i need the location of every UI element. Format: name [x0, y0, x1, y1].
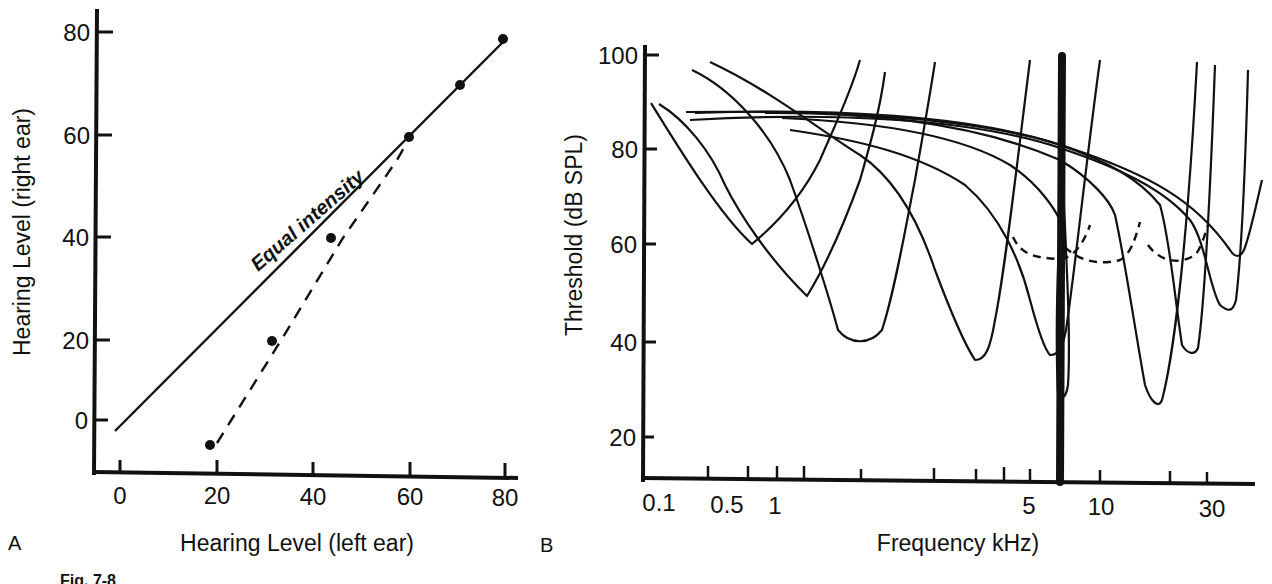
y-tick-label: 40 [62, 224, 89, 251]
panel-b: 100 80 60 40 20 0.1 0.5 1 5 10 [540, 42, 1262, 556]
panel-a-letter: A [8, 532, 22, 554]
y-tick-label: 60 [610, 231, 637, 258]
dashed-tips [1013, 222, 1208, 262]
panel-b-x-axis [641, 478, 1255, 484]
measured-balance-line [217, 137, 410, 443]
tuning-curve [695, 65, 1215, 353]
data-point [498, 34, 508, 44]
panel-a-x-axis [93, 472, 518, 478]
equal-intensity-label: Equal intensity [246, 165, 368, 276]
data-point [267, 336, 277, 346]
figure: 80 60 40 20 0 0 20 40 60 80 Hearing Leve… [0, 0, 1272, 584]
tuning-curves [651, 60, 1262, 404]
x-tick-label: 10 [1088, 493, 1115, 520]
tuning-curve [710, 60, 1030, 360]
y-tick-label: 20 [62, 327, 89, 354]
data-point [455, 80, 465, 90]
y-tick-label: 20 [609, 424, 636, 451]
panel-b-y-axis-title: Threshold (dB SPL) [561, 134, 587, 336]
x-tick-label: 30 [1199, 495, 1226, 522]
tuning-curve [692, 62, 935, 341]
x-tick-label: 40 [300, 483, 327, 510]
figure-svg: 80 60 40 20 0 0 20 40 60 80 Hearing Leve… [0, 0, 1272, 584]
panel-a-y-axis [94, 9, 97, 475]
y-tick-label: 80 [611, 136, 638, 163]
x-tick-label: 0.5 [710, 491, 743, 518]
x-tick-label: 20 [204, 482, 231, 509]
panel-a-y-tick-labels: 80 60 40 20 0 [62, 19, 90, 434]
y-tick-label: 80 [63, 19, 90, 46]
panel-b-x-tick-labels: 0.1 0.5 1 5 10 30 [642, 489, 1225, 522]
data-point [326, 233, 336, 243]
y-tick-label: 40 [610, 329, 637, 356]
tuning-curve [659, 72, 885, 296]
equal-intensity-line [115, 39, 506, 431]
dashed-tip [1148, 225, 1208, 261]
x-tick-label: 0.1 [642, 489, 675, 516]
panel-b-y-tick-labels: 100 80 60 40 20 [598, 42, 638, 451]
data-point [404, 132, 414, 142]
panel-a-x-axis-title: Hearing Level (left ear) [180, 530, 414, 556]
x-tick-label: 1 [768, 492, 781, 519]
panel-a: 80 60 40 20 0 0 20 40 60 80 Hearing Leve… [8, 9, 518, 556]
panel-a-y-axis-title: Hearing Level (right ear) [9, 108, 35, 356]
tuning-curve [651, 60, 860, 244]
x-tick-label: 60 [397, 483, 424, 510]
y-tick-label: 0 [75, 407, 88, 434]
panel-a-x-tick-labels: 0 20 40 60 80 [113, 482, 518, 511]
data-point [205, 440, 215, 450]
x-tick-label: 0 [113, 482, 126, 509]
panel-b-letter: B [540, 534, 553, 556]
y-tick-label: 100 [598, 42, 638, 69]
figure-caption-fragment: Fig. 7-8 [60, 572, 116, 584]
x-tick-label: 5 [1022, 492, 1035, 519]
x-tick-label: 80 [492, 484, 519, 511]
panel-b-y-axis [643, 45, 645, 482]
stimulus-frequency-bar [1060, 56, 1062, 482]
y-tick-label: 60 [63, 122, 90, 149]
panel-b-x-axis-title: Frequency kHz) [877, 530, 1039, 556]
